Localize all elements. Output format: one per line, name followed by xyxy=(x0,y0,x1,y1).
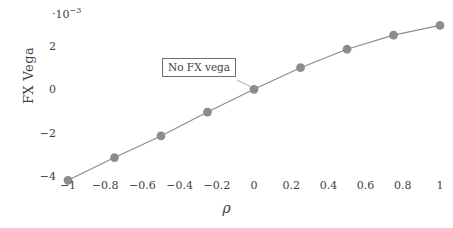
leader-line xyxy=(237,80,250,86)
x-tick-label: −0.8 xyxy=(92,179,119,192)
data-point xyxy=(157,132,166,141)
data-point xyxy=(343,45,352,54)
x-axis-label: ρ xyxy=(0,200,453,216)
data-point xyxy=(436,21,445,30)
series-line xyxy=(68,25,440,180)
annotation-no-fx-vega: No FX vega xyxy=(162,58,236,77)
data-point xyxy=(296,63,305,72)
y-tick-label: −2 xyxy=(32,126,56,139)
plot-canvas xyxy=(0,0,453,228)
x-tick-label: −0.4 xyxy=(166,179,193,192)
data-point xyxy=(389,31,398,40)
y-axis-multiplier-exponent: −3 xyxy=(70,6,82,15)
y-tick-label: −4 xyxy=(32,170,56,183)
x-tick-label: 0.8 xyxy=(394,179,412,192)
y-axis-multiplier: ·10−3 xyxy=(52,6,81,21)
x-tick-label: 0.4 xyxy=(320,179,338,192)
x-tick-label: 0 xyxy=(251,179,258,192)
x-tick-label: 1 xyxy=(437,179,444,192)
y-axis-label: FX Vega xyxy=(21,26,36,126)
data-point xyxy=(110,153,119,162)
x-tick-label: 0.6 xyxy=(357,179,375,192)
y-tick-label: 2 xyxy=(32,40,56,53)
x-tick-label: −0.2 xyxy=(203,179,230,192)
series-markers xyxy=(64,21,445,185)
y-tick-label: 0 xyxy=(32,83,56,96)
data-point xyxy=(250,85,259,94)
data-point xyxy=(203,108,212,117)
annotation-leader-line xyxy=(237,80,250,86)
data-series-fx-vega xyxy=(64,21,445,185)
x-tick-label: −0.6 xyxy=(129,179,156,192)
chart-figure: ·10−3 20−2−4 −1−0.8−0.6−0.4−0.200.20.40.… xyxy=(0,0,453,228)
x-tick-label: −1 xyxy=(60,179,76,192)
x-tick-label: 0.2 xyxy=(282,179,300,192)
